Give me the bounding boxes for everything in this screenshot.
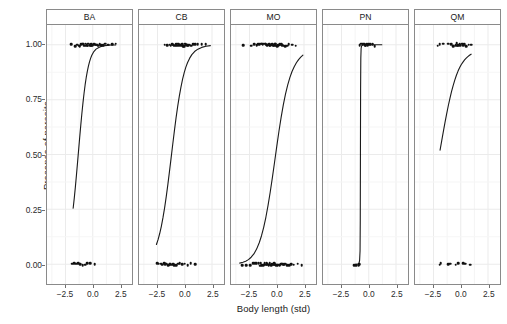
facet-svg (139, 25, 224, 284)
data-point-presence (242, 44, 245, 47)
data-point-presence (114, 42, 117, 45)
x-tick-label: −2.5 (149, 289, 166, 299)
x-tick-group: −2.50.02.5 (46, 285, 133, 301)
data-point-presence (442, 43, 445, 46)
facet-svg (231, 25, 316, 284)
data-point-presence (470, 43, 473, 46)
x-tick-mark (369, 285, 370, 288)
data-point-presence (373, 45, 376, 48)
facet-svg (415, 25, 500, 284)
y-tick-mark (42, 99, 45, 100)
facet-strip-label: BA (46, 9, 133, 24)
x-tick-mark (157, 285, 158, 288)
fitted-logistic-curve (440, 54, 471, 150)
data-point-absence (449, 262, 452, 265)
x-tick-label: 0.0 (363, 289, 375, 299)
y-tick-label: 0.25 (2, 205, 42, 215)
x-tick-group: −2.50.02.5 (138, 285, 225, 301)
facet-svg (47, 25, 132, 284)
facet-strip-label: QM (414, 9, 501, 24)
facet-panel-pn: PN (322, 9, 409, 285)
facet-plot-area (414, 24, 501, 285)
gridlines (323, 25, 408, 284)
gridlines (139, 25, 224, 284)
x-tick-mark (185, 285, 186, 288)
y-tick-mark (42, 210, 45, 211)
x-tick-mark (433, 285, 434, 288)
faceted-logistic-scatter-figure: Presence of parasite 0.000.250.500.751.0… (0, 0, 507, 324)
data-point-absence (300, 264, 303, 267)
facet-plot-canvas (47, 25, 132, 284)
data-point-absence (194, 263, 197, 266)
x-tick-label: 2.5 (115, 289, 127, 299)
x-tick-label: 0.0 (87, 289, 99, 299)
facet-panel-cb: CB (138, 9, 225, 285)
facet-plot-canvas (323, 25, 408, 284)
x-tick-label: −2.5 (241, 289, 258, 299)
data-point-presence (438, 43, 441, 46)
x-tick-label: −2.5 (57, 289, 74, 299)
x-tick-label: 0.0 (271, 289, 283, 299)
gridlines (415, 25, 500, 284)
data-point-absence (241, 264, 244, 267)
data-point-presence (288, 43, 291, 46)
facet-plot-area (322, 24, 409, 285)
facet-panel-ba: BA (46, 9, 133, 285)
x-tick-label: 2.5 (483, 289, 495, 299)
data-point-presence (196, 43, 199, 46)
facet-strip-label: PN (322, 9, 409, 24)
facet-svg (323, 25, 408, 284)
x-tick-label: 0.0 (179, 289, 191, 299)
data-point-absence (89, 262, 92, 265)
facet-plot-canvas (139, 25, 224, 284)
x-tick-mark (305, 285, 306, 288)
data-point-absence (189, 262, 192, 265)
data-point-absence (245, 264, 248, 267)
data-point-absence (358, 263, 361, 266)
x-axis-ticks-row: −2.50.02.5−2.50.02.5−2.50.02.5−2.50.02.5… (46, 285, 501, 301)
x-axis-title: Body length (std) (46, 303, 501, 314)
x-tick-mark (65, 285, 66, 288)
fitted-logistic-curve (156, 46, 210, 245)
x-tick-mark (277, 285, 278, 288)
x-tick-mark (249, 285, 250, 288)
y-tick-label: 0.50 (2, 150, 42, 160)
facet-panel-mo: MO (230, 9, 317, 285)
x-tick-group: −2.50.02.5 (414, 285, 501, 301)
data-point-absence (296, 263, 299, 266)
facet-panel-qm: QM (414, 9, 501, 285)
x-tick-label: 2.5 (299, 289, 311, 299)
x-tick-mark (397, 285, 398, 288)
y-tick-label: 0.75 (2, 94, 42, 104)
facet-plot-area (46, 24, 133, 285)
y-axis-ticks: 0.000.250.500.751.00 (0, 0, 42, 324)
data-point-presence (107, 44, 110, 47)
panel-row: BACBMOPNQM (46, 9, 501, 285)
data-point-absence (464, 262, 467, 265)
x-tick-group: −2.50.02.5 (230, 285, 317, 301)
x-tick-mark (341, 285, 342, 288)
data-point-absence (469, 264, 472, 267)
y-tick-label: 0.00 (2, 260, 42, 270)
data-point-presence (204, 43, 207, 46)
data-point-presence (111, 43, 114, 46)
data-point-absence (457, 262, 460, 265)
x-tick-mark (213, 285, 214, 288)
facet-plot-area (230, 24, 317, 285)
y-tick-mark (42, 44, 45, 45)
facet-plot-canvas (415, 25, 500, 284)
data-point-absence (292, 264, 295, 267)
gridlines (231, 25, 316, 284)
x-tick-mark (121, 285, 122, 288)
x-tick-label: 2.5 (391, 289, 403, 299)
data-point-presence (295, 44, 298, 47)
x-tick-mark (489, 285, 490, 288)
x-tick-label: −2.5 (425, 289, 442, 299)
data-point-absence (93, 263, 96, 266)
facet-plot-area (138, 24, 225, 285)
x-tick-label: 2.5 (207, 289, 219, 299)
y-tick-mark (42, 265, 45, 266)
x-tick-label: 0.0 (455, 289, 467, 299)
x-tick-label: −2.5 (333, 289, 350, 299)
x-tick-group: −2.50.02.5 (322, 285, 409, 301)
